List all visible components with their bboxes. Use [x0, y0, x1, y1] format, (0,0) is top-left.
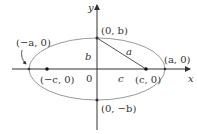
vertex-bottom-point	[96, 99, 99, 102]
label-pos-a: (a, 0)	[164, 54, 191, 65]
pointer-arrow	[22, 50, 27, 64]
vertex-right-point	[164, 68, 167, 71]
label-neg-c: (−c, 0)	[40, 74, 75, 85]
segment-a	[97, 38, 146, 69]
x-axis-label: x	[188, 73, 194, 84]
vertex-left-point	[28, 68, 31, 71]
segment-b-label: b	[85, 51, 91, 62]
label-neg-b: (0, −b)	[101, 103, 136, 114]
y-axis-label: y	[87, 2, 94, 13]
label-pos-b: (0, b)	[101, 25, 128, 36]
focus-right-point	[144, 67, 148, 71]
label-pos-c: (c, 0)	[135, 74, 161, 85]
segment-c-label: c	[118, 73, 124, 84]
ellipse-diagram: y x 0 (−a, 0) (a, 0) (−c, 0) (c, 0) (0, …	[0, 0, 197, 134]
label-neg-a: (−a, 0)	[16, 37, 51, 48]
segment-a-label: a	[126, 46, 132, 57]
focus-left-point	[45, 67, 49, 71]
vertex-top-point	[96, 37, 99, 40]
origin-label: 0	[86, 73, 92, 84]
